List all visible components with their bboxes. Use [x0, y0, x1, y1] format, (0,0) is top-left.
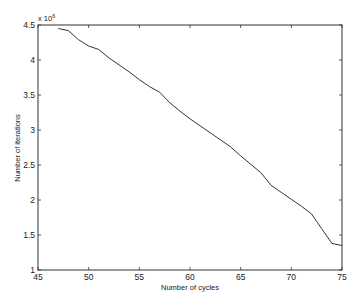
x-tick-label: 70	[287, 272, 297, 282]
y-multiplier-label: x 106	[38, 13, 55, 23]
line-chart: 45505560657075 11.522.533.544.5 Number o…	[0, 0, 362, 302]
x-tick-label: 60	[185, 272, 195, 282]
x-tick-label: 65	[236, 272, 246, 282]
y-tick-label: 3	[30, 125, 35, 135]
y-axis-label: Number of iterations	[13, 114, 22, 182]
y-tick-label: 4	[30, 55, 35, 65]
data-line	[58, 29, 342, 246]
y-tick-label: 1.5	[23, 230, 35, 240]
plot-border	[38, 25, 342, 270]
y-tick-label: 4.5	[23, 20, 35, 30]
y-tick-label: 1	[30, 265, 35, 275]
x-axis-label: Number of cycles	[161, 283, 219, 292]
x-tick-label: 50	[84, 272, 94, 282]
y-tick-label: 3.5	[23, 90, 35, 100]
y-axis-ticks: 11.522.533.544.5	[23, 20, 342, 275]
x-tick-label: 75	[337, 272, 347, 282]
x-tick-label: 55	[135, 272, 145, 282]
plot-frame	[38, 25, 342, 270]
y-tick-label: 2	[30, 195, 35, 205]
x-axis-ticks: 45505560657075	[33, 25, 347, 282]
y-tick-label: 2.5	[23, 160, 35, 170]
